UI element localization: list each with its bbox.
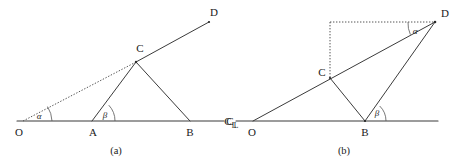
panel-a-alpha-arc	[48, 107, 53, 121]
panel-b-segment-B-to-D	[365, 22, 435, 121]
panel-a-vertex-D	[208, 21, 210, 23]
panel-b-label-D: D	[441, 7, 449, 19]
panel-b-label-C: C	[318, 66, 325, 78]
panel-b-label-O: O	[248, 126, 256, 138]
panel-b-label-alpha: α	[413, 26, 418, 36]
geometry-diagram: O A B C D α β C L (a)	[0, 0, 463, 161]
panel-b-centerline-symbol-main: C	[226, 115, 233, 127]
panel-a-label-beta: β	[102, 110, 108, 120]
panel-b-centerline-symbol-sub: L	[234, 121, 239, 130]
panel-b-segment-C-to-B	[330, 78, 365, 121]
panel-b-beta-arc	[380, 106, 386, 121]
panel-b: O B C D α β C L (b)	[226, 7, 449, 157]
panel-a-vertex-C	[135, 61, 137, 63]
panel-b-vertex-B	[364, 120, 366, 122]
panel-a-segment-C-to-A	[92, 62, 136, 121]
panel-b-vertex-C	[329, 77, 331, 79]
panel-a-label-A: A	[89, 126, 97, 138]
panel-a: O A B C D α β C L (a)	[15, 6, 237, 157]
panel-b-vertex-D	[434, 21, 437, 24]
panel-a-caption: (a)	[110, 145, 122, 157]
panel-b-label-beta: β	[374, 108, 380, 118]
panel-a-segment-C-to-B	[136, 62, 190, 121]
panel-a-label-D: D	[210, 6, 218, 18]
panel-a-label-C: C	[136, 42, 143, 54]
panel-a-beta-arc	[109, 105, 115, 121]
panel-b-label-B: B	[361, 126, 368, 138]
figure-container: O A B C D α β C L (a)	[0, 0, 463, 161]
panel-b-caption: (b)	[338, 145, 351, 157]
panel-a-label-O: O	[15, 126, 23, 138]
panel-a-label-B: B	[186, 126, 193, 138]
panel-b-segment-O-to-D	[253, 22, 435, 121]
panel-b-alpha-arc	[408, 22, 410, 35]
panel-a-segment-C-to-D	[136, 22, 209, 62]
panel-a-label-alpha: α	[37, 111, 42, 121]
